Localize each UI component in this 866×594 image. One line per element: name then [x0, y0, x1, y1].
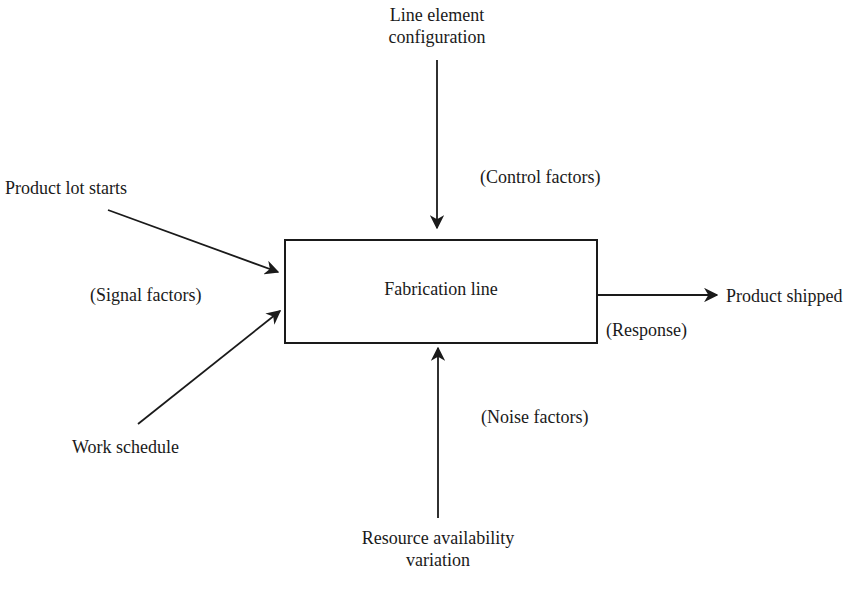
product-lot-starts-label: Product lot starts	[5, 177, 127, 199]
product-lot-starts-arrow	[108, 210, 278, 272]
noise-factors-label: (Noise factors)	[481, 406, 588, 428]
work-schedule-arrow	[138, 311, 280, 424]
noise-source-label: Resource availability variation	[338, 527, 538, 571]
noise-source-line-1: Resource availability	[338, 527, 538, 549]
control-source-label: Line element configuration	[362, 4, 512, 48]
control-factors-label: (Control factors)	[480, 166, 600, 188]
control-source-line-1: Line element	[362, 4, 512, 26]
fabrication-line-box: Fabrication line	[284, 239, 598, 344]
noise-source-line-2: variation	[338, 549, 538, 571]
control-source-line-2: configuration	[362, 26, 512, 48]
signal-factors-label: (Signal factors)	[90, 284, 201, 306]
response-label: (Response)	[606, 319, 687, 341]
work-schedule-label: Work schedule	[72, 436, 179, 458]
product-shipped-label: Product shipped	[726, 285, 843, 307]
process-label: Fabrication line	[286, 279, 596, 300]
